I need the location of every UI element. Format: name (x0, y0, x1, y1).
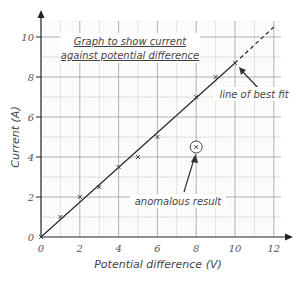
chart-title-line1: Graph to show current (74, 36, 188, 47)
svg-text:line of best fit: line of best fit (219, 89, 289, 100)
x-axis-label: Potential difference (V) (94, 258, 222, 271)
svg-text:0: 0 (28, 232, 35, 243)
y-axis-label: Current (A) (9, 106, 22, 167)
svg-text:12: 12 (267, 243, 280, 254)
svg-text:anomalous result: anomalous result (135, 196, 223, 207)
svg-text:8: 8 (193, 243, 199, 254)
chart-title-line2: against potential difference (61, 50, 199, 61)
svg-text:6: 6 (154, 243, 161, 254)
svg-text:2: 2 (76, 243, 83, 254)
svg-text:8: 8 (28, 72, 34, 83)
svg-text:6: 6 (28, 112, 35, 123)
svg-text:0: 0 (38, 243, 45, 254)
x-tick-labels: 0 2 4 6 8 10 12 (38, 243, 280, 254)
svg-text:4: 4 (27, 152, 34, 163)
svg-text:10: 10 (21, 32, 34, 43)
svg-text:4: 4 (114, 243, 121, 254)
anomalous-point (190, 141, 202, 153)
svg-text:2: 2 (27, 192, 34, 203)
y-tick-labels: 0 2 4 6 8 10 (21, 32, 34, 243)
current-vs-pd-chart: Graph to show current against potential … (0, 0, 304, 281)
svg-text:10: 10 (229, 243, 242, 254)
